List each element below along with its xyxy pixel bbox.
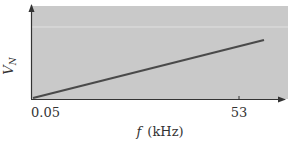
- y-axis-label-sub: N: [8, 56, 18, 66]
- x-tick-label-1: 53: [231, 105, 248, 120]
- y-axis-label: VN: [1, 56, 18, 74]
- line-chart: 0.05 53 f (kHz) VN: [0, 0, 288, 145]
- x-axis-label: f (kHz): [135, 124, 183, 139]
- x-axis-label-unit: (kHz): [147, 124, 183, 139]
- x-axis-label-var: f: [135, 124, 143, 139]
- x-tick-label-0: 0.05: [31, 105, 60, 120]
- plot-area: [32, 6, 288, 99]
